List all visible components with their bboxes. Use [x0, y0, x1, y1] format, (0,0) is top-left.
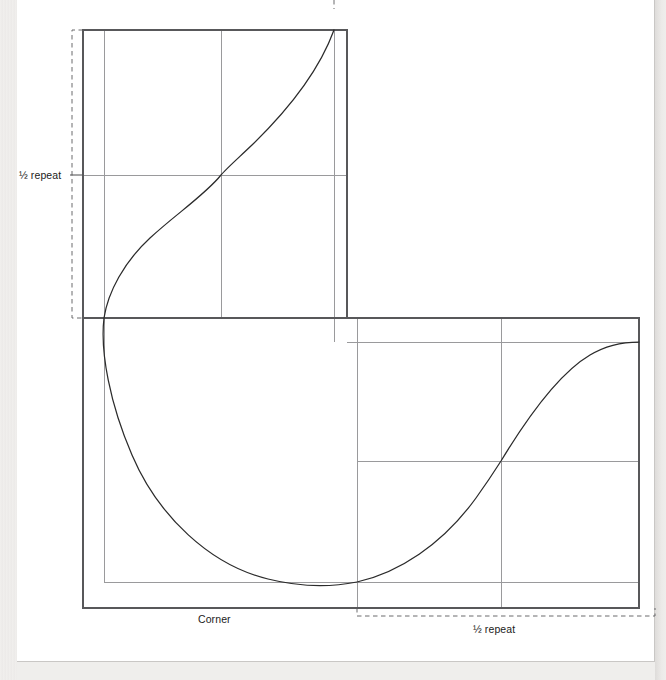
frame-outline — [83, 30, 639, 608]
label-corner: Corner — [198, 613, 231, 625]
label-half-repeat-left: ½ repeat — [19, 169, 61, 181]
dashed-brackets — [72, 0, 655, 616]
transition-curve — [103, 30, 639, 585]
curve-path — [103, 30, 639, 585]
frame-upper-box — [83, 30, 347, 318]
dash-bracket-bottom — [357, 608, 655, 616]
frame-lower-box — [83, 318, 639, 608]
label-half-repeat-bottom: ½ repeat — [473, 623, 515, 635]
figure-container: ½ repeat Corner ½ repeat — [0, 0, 666, 680]
grid-lines — [83, 30, 639, 608]
corner-repeat-diagram — [0, 0, 666, 680]
dash-bracket-left — [72, 30, 83, 318]
